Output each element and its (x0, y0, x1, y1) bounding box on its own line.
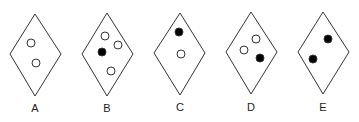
diamond-shape (82, 13, 133, 96)
filled-dot (175, 28, 183, 36)
open-dot (252, 35, 260, 43)
filled-dot (256, 54, 264, 62)
open-dot (101, 32, 109, 40)
open-dot (177, 50, 185, 58)
option-label: C (176, 101, 184, 113)
option-c: C (154, 13, 205, 113)
diamond-shape (226, 12, 277, 94)
option-b: B (82, 13, 133, 114)
filled-dot (309, 55, 317, 63)
option-e: E (298, 12, 349, 113)
open-dot (107, 67, 115, 75)
option-a: A (10, 14, 61, 114)
diamond-shape (298, 12, 349, 94)
option-label: B (103, 102, 110, 114)
open-dot (32, 59, 40, 67)
option-label: E (319, 101, 326, 113)
diamond-options-figure: ABCDE (0, 0, 359, 122)
option-label: D (247, 101, 255, 113)
open-dot (114, 41, 122, 49)
diamond-shape (10, 14, 61, 96)
filled-dot (324, 35, 332, 43)
option-label: A (31, 102, 39, 114)
option-d: D (226, 12, 277, 113)
open-dot (27, 39, 35, 47)
open-dot (240, 46, 248, 54)
filled-dot (98, 48, 106, 56)
